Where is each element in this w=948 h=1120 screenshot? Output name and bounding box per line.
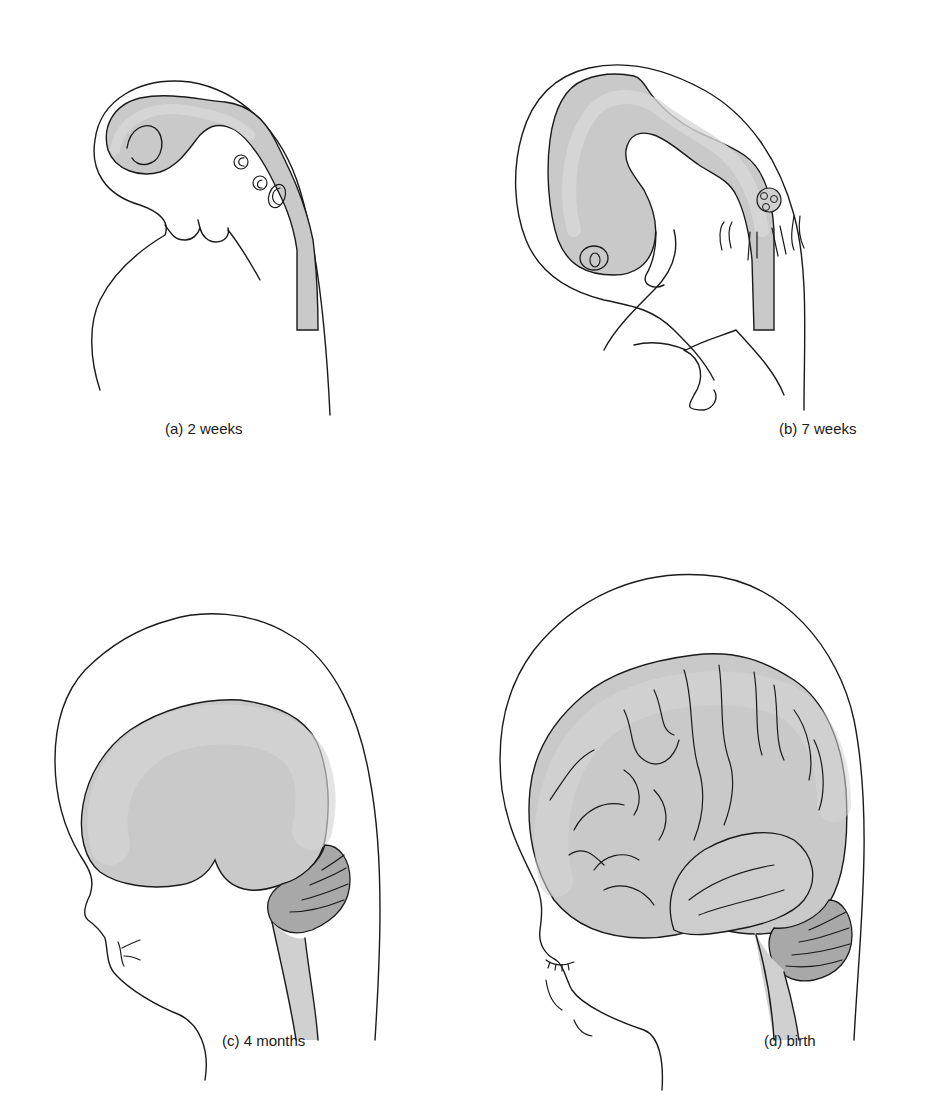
panel-4-months: (c) 4 months [0,460,474,1120]
caption-2-weeks: (a) 2 weeks [165,420,243,437]
panel-2-weeks: (a) 2 weeks [0,0,474,460]
embryo-2-weeks-illustration [0,0,474,460]
caption-birth: (d) birth [764,1032,816,1049]
panel-7-weeks: (b) 7 weeks [474,0,948,460]
caption-4-months: (c) 4 months [222,1032,305,1049]
embryo-7-weeks-illustration [474,0,948,460]
panel-birth: (d) birth [474,460,948,1120]
fetus-4-months-illustration [0,460,474,1120]
caption-7-weeks: (b) 7 weeks [779,420,857,437]
newborn-brain-illustration [474,460,948,1120]
